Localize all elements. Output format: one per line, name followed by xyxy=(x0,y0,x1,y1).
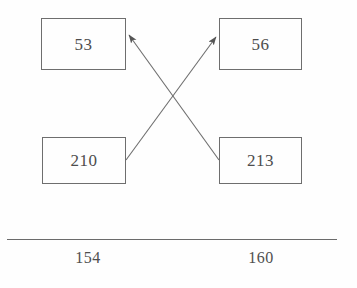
horizontal-rule xyxy=(7,239,337,240)
node-box-bottom-left[interactable]: 210 xyxy=(42,137,126,184)
axis-label-right: 160 xyxy=(221,250,301,266)
edge-210-to-56 xyxy=(126,37,216,160)
edge-213-to-53 xyxy=(129,35,219,160)
node-label-bottom-right: 213 xyxy=(247,152,274,169)
diagram-page: 53 56 210 213 154 160 xyxy=(0,0,357,288)
axis-label-left-text: 154 xyxy=(75,249,101,266)
axis-label-right-text: 160 xyxy=(248,249,274,266)
node-label-top-left: 53 xyxy=(75,36,93,53)
node-box-top-left[interactable]: 53 xyxy=(41,18,126,70)
node-label-bottom-left: 210 xyxy=(71,152,98,169)
node-label-top-right: 56 xyxy=(252,36,270,53)
node-box-top-right[interactable]: 56 xyxy=(219,18,302,70)
node-box-bottom-right[interactable]: 213 xyxy=(219,137,302,184)
axis-label-left: 154 xyxy=(48,250,128,266)
